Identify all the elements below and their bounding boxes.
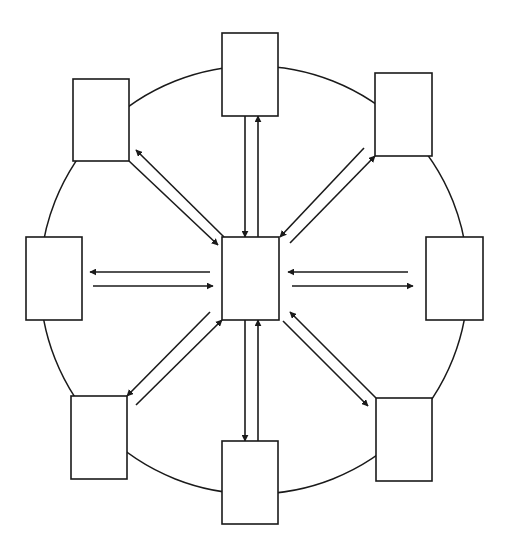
node-top-right bbox=[375, 73, 432, 156]
node-group bbox=[26, 33, 483, 524]
arrow-center-to-bottomright bbox=[283, 321, 368, 406]
arrow-center-to-bottomleft bbox=[127, 312, 210, 396]
node-bottom-right bbox=[376, 398, 432, 481]
node-bottom bbox=[222, 441, 278, 524]
arrow-topleft-to-center bbox=[129, 161, 218, 245]
node-top bbox=[222, 33, 278, 116]
node-bottom-left bbox=[71, 396, 127, 479]
arrow-center-to-topright bbox=[290, 156, 375, 243]
node-top-left bbox=[73, 79, 129, 161]
node-right bbox=[426, 237, 483, 320]
hub-and-spoke-diagram bbox=[0, 0, 510, 555]
arrow-bottomleft-to-center bbox=[136, 320, 222, 405]
arrow-center-to-topleft bbox=[136, 150, 224, 237]
arrow-topright-to-center bbox=[280, 148, 364, 237]
node-left bbox=[26, 237, 82, 320]
arrow-bottomright-to-center bbox=[290, 312, 376, 398]
node-center bbox=[222, 237, 279, 320]
